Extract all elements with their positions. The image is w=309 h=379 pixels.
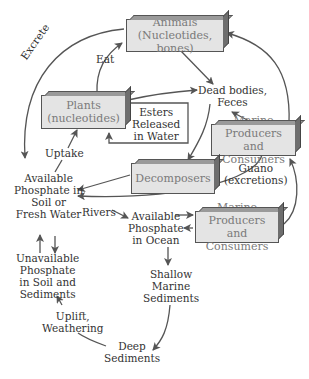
shallow-line3: Sediments xyxy=(143,292,199,304)
decomposers-to-soil-arrow xyxy=(78,175,130,190)
deep-line1: Deep xyxy=(104,340,160,352)
dead-bodies-line2: Feces xyxy=(198,96,267,108)
avail-soil-line4: Fresh Water xyxy=(14,208,83,220)
avail-ocean-line1: Available xyxy=(128,210,184,222)
deep-line2: Sediments xyxy=(104,352,160,364)
uplift-line2: Weathering xyxy=(42,322,103,334)
unavail-line1: Unavailable xyxy=(16,252,79,264)
avail-soil-line3: Soil or xyxy=(14,196,83,208)
rivers-label: Rivers xyxy=(82,206,116,218)
available-phosphate-soil-label: Available Phosphate in Soil or Fresh Wat… xyxy=(14,172,83,220)
plants-to-dead-arrow xyxy=(128,90,197,100)
decomposers-title: Decomposers xyxy=(135,172,210,185)
esters-line1: Esters xyxy=(132,106,180,118)
guano-label: Guano (excretions) xyxy=(224,162,288,186)
marine-bottom-line2: and Consumers xyxy=(196,227,278,253)
unavail-line3: in Soil and xyxy=(16,276,79,288)
marine-to-animals-arrow xyxy=(227,33,289,123)
deep-sediments-label: Deep Sediments xyxy=(104,340,160,364)
shallow-line2: Marine xyxy=(143,280,199,292)
deep-to-uplift-arrow xyxy=(78,333,106,346)
animals-subtitle: (Nucleotides, bones) xyxy=(127,29,223,55)
animals-box: Animals (Nucleotides, bones) xyxy=(126,19,224,52)
unavail-line4: Sediments xyxy=(16,288,79,300)
marine-bottom-line1: Marine Producers xyxy=(196,201,278,227)
esters-label: Esters Released in Water xyxy=(132,106,180,142)
unavailable-phosphate-label: Unavailable Phosphate in Soil and Sedime… xyxy=(16,252,79,300)
marine-producers-top-box: Marine Producers and Consumers xyxy=(211,124,296,156)
avail-ocean-line2: Phosphate xyxy=(128,222,184,234)
avail-soil-line2: Phosphate in xyxy=(14,184,83,196)
animals-to-dead-arrow xyxy=(180,50,213,84)
dead-bodies-line1: Dead bodies, xyxy=(198,84,267,96)
marine-top-line1: Marine Producers xyxy=(212,114,295,140)
shallow-line1: Shallow xyxy=(143,268,199,280)
esters-line2: Released xyxy=(132,118,180,130)
avail-soil-line1: Available xyxy=(14,172,83,184)
shallow-marine-sediments-label: Shallow Marine Sediments xyxy=(143,268,199,304)
eat-label: Eat xyxy=(96,53,114,65)
uplift-weathering-label: Uplift, Weathering xyxy=(42,310,103,334)
guano-line2: (excretions) xyxy=(224,174,288,186)
esters-line3: in Water xyxy=(132,130,180,142)
uplift-line1: Uplift, xyxy=(42,310,103,322)
avail-ocean-line3: in Ocean xyxy=(128,234,184,246)
eat-arrow xyxy=(97,43,122,93)
animals-title: Animals xyxy=(153,16,198,29)
unavail-line2: Phosphate xyxy=(16,264,79,276)
plants-box: Plants (nucleotides) xyxy=(41,95,126,129)
uptake-arrow xyxy=(55,160,62,172)
decomposers-box: Decomposers xyxy=(131,163,215,194)
dead-to-decomposers-arrow xyxy=(188,104,210,160)
plants-subtitle: (nucleotides) xyxy=(47,112,120,125)
uptake-label: Uptake xyxy=(45,147,84,159)
available-phosphate-ocean-label: Available Phosphate in Ocean xyxy=(128,210,184,246)
guano-line1: Guano xyxy=(224,162,288,174)
dead-bodies-label: Dead bodies, Feces xyxy=(198,84,267,108)
marine-producers-bottom-box: Marine Producers and Consumers xyxy=(195,211,279,243)
plants-title: Plants xyxy=(66,99,101,112)
